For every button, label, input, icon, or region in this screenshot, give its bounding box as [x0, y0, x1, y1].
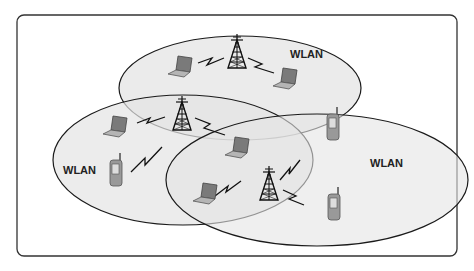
wlan-label-right: WLAN: [370, 157, 403, 169]
wlan-label-left: WLAN: [63, 164, 96, 176]
wlan-label-top: WLAN: [290, 48, 323, 60]
wlan-cell-right: [166, 114, 468, 246]
wlan-diagram: WLAN WLAN WLAN: [0, 0, 474, 271]
